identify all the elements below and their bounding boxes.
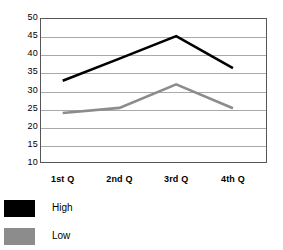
chart-legend: HighLow	[4, 196, 279, 250]
series-line-low	[63, 84, 233, 113]
x-axis-tick-label: 1st Q	[33, 174, 93, 185]
x-axis-tick-labels: 1st Q2nd Q3rd Q4th Q	[0, 174, 283, 188]
legend-item-low[interactable]: Low	[4, 224, 279, 248]
legend-swatch-low	[4, 228, 35, 245]
x-axis-tick-label: 4th Q	[203, 174, 263, 185]
legend-item-high[interactable]: High	[4, 196, 279, 220]
legend-label: High	[52, 202, 73, 214]
x-axis-tick-label: 2nd Q	[89, 174, 149, 185]
series-line-high	[63, 36, 233, 81]
line-chart-figure: 504540353025201510 1st Q2nd Q3rd Q4th Q …	[0, 0, 283, 250]
x-axis-tick-label: 3rd Q	[146, 174, 206, 185]
legend-swatch-high	[4, 200, 35, 217]
legend-label: Low	[52, 230, 70, 242]
